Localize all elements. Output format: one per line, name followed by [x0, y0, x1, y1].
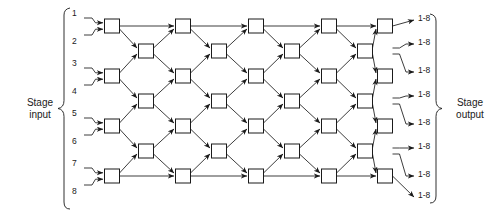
output-label-3: 1-8 — [418, 66, 430, 75]
link-arrow — [154, 154, 175, 173]
switch-node — [105, 69, 120, 83]
link-arrow — [337, 29, 357, 48]
link-arrow — [300, 29, 321, 48]
input-label-7: 7 — [72, 159, 77, 168]
link-arrow — [373, 104, 377, 123]
input-lead — [84, 129, 96, 135]
input-label-4: 4 — [72, 87, 77, 96]
link-arrow — [337, 54, 357, 73]
switch-node — [176, 19, 191, 33]
link-arrow — [337, 129, 357, 148]
link-arrow — [300, 54, 321, 73]
input-lead — [84, 18, 96, 23]
link-arrow — [264, 54, 284, 73]
output-lead — [393, 154, 407, 176]
switch-node — [176, 119, 191, 133]
stage-output-line1: Stage — [457, 97, 483, 108]
link-arrow — [120, 29, 138, 48]
link-arrow — [373, 154, 377, 173]
switch-node — [105, 19, 120, 33]
switch-node — [249, 19, 264, 33]
link-arrow — [300, 154, 321, 173]
output-lead — [393, 104, 407, 124]
link-arrow — [337, 154, 357, 173]
input-lead — [84, 179, 96, 185]
link-arrow — [264, 104, 284, 123]
link-arrow — [373, 29, 377, 48]
link-arrow — [264, 129, 284, 148]
input-label-2: 2 — [72, 37, 77, 46]
output-lead — [393, 54, 407, 72]
input-lead — [84, 29, 96, 35]
input-label-1: 1 — [72, 9, 77, 18]
link-arrow — [227, 54, 248, 73]
switch-node — [378, 69, 393, 83]
link-arrow — [300, 129, 321, 148]
output-label-6: 1-8 — [418, 142, 430, 151]
input-lead — [84, 118, 96, 123]
switch-node — [358, 144, 373, 158]
switch-node — [105, 119, 120, 133]
output-label-2: 1-8 — [418, 38, 430, 47]
link-arrow — [120, 129, 138, 148]
link-arrow — [227, 129, 248, 148]
switch-node — [249, 69, 264, 83]
switch-node — [105, 169, 120, 183]
switch-node — [322, 69, 337, 83]
switch-node — [212, 94, 227, 108]
link-arrow — [154, 129, 175, 148]
output-label-8: 1-8 — [418, 191, 430, 200]
switch-node — [176, 169, 191, 183]
network-switch-nodes — [105, 19, 393, 183]
switch-node — [176, 69, 191, 83]
output-brace — [430, 14, 442, 203]
link-arrow — [373, 54, 377, 73]
link-arrow — [264, 154, 284, 173]
stage-input-caption: Stage input — [14, 97, 66, 120]
link-arrow — [154, 54, 175, 73]
link-arrow — [191, 154, 211, 173]
stage-input-line1: Stage — [27, 97, 53, 108]
link-arrow — [337, 79, 357, 98]
link-arrow — [120, 54, 138, 73]
output-label-4: 1-8 — [418, 90, 430, 99]
output-label-1: 1-8 — [418, 14, 430, 23]
link-arrow — [227, 79, 248, 98]
input-lead — [84, 68, 96, 73]
switch-node — [212, 44, 227, 58]
link-arrow — [120, 79, 138, 98]
output-lead — [393, 20, 415, 26]
switch-node — [285, 44, 300, 58]
switch-node — [139, 144, 154, 158]
link-arrow — [191, 79, 211, 98]
link-arrow — [120, 104, 138, 123]
switch-node — [358, 94, 373, 108]
link-arrow — [227, 154, 248, 173]
link-arrow — [373, 129, 377, 148]
switch-node — [212, 144, 227, 158]
switch-node — [322, 19, 337, 33]
switch-node — [249, 119, 264, 133]
input-label-8: 8 — [72, 187, 77, 196]
link-arrow — [227, 29, 248, 48]
link-arrow — [300, 79, 321, 98]
switch-node — [378, 19, 393, 33]
switch-node — [139, 94, 154, 108]
link-arrow — [191, 29, 211, 48]
input-label-3: 3 — [72, 59, 77, 68]
switch-node — [249, 169, 264, 183]
input-label-5: 5 — [72, 109, 77, 118]
link-arrow — [191, 104, 211, 123]
switch-node — [358, 44, 373, 58]
switch-node — [378, 119, 393, 133]
link-arrow — [264, 29, 284, 48]
output-lead — [393, 96, 407, 98]
link-arrow — [300, 104, 321, 123]
stage-output-caption: Stage output — [446, 97, 494, 120]
link-arrow — [227, 104, 248, 123]
link-arrow — [120, 154, 138, 173]
link-arrow — [154, 29, 175, 48]
input-label-6: 6 — [72, 137, 77, 146]
network-links — [120, 26, 377, 176]
switch-node — [285, 144, 300, 158]
